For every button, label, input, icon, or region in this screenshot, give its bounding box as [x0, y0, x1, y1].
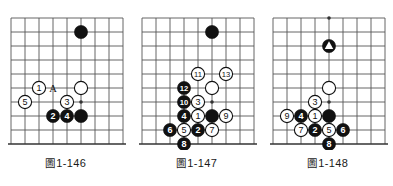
caption-mark-icon: 圖 [307, 157, 317, 169]
go-board-1-147: 12345678910111213 [131, 0, 262, 150]
svg-text:8: 8 [181, 139, 186, 149]
svg-text:9: 9 [223, 111, 228, 121]
svg-text:2: 2 [312, 125, 317, 135]
svg-text:5: 5 [181, 125, 186, 135]
svg-text:11: 11 [194, 70, 202, 79]
svg-text:10: 10 [180, 98, 188, 107]
svg-text:4: 4 [298, 111, 303, 121]
svg-text:4: 4 [181, 111, 186, 121]
figure-1-146: A12345 圖1-146 [0, 0, 131, 186]
svg-text:2: 2 [195, 125, 200, 135]
caption-number: 1-148 [318, 157, 348, 169]
svg-text:1: 1 [36, 83, 41, 93]
figure-1-148: 123456789 圖1-148 [262, 0, 393, 186]
caption-mark-icon: 圖 [45, 157, 55, 169]
svg-text:5: 5 [326, 125, 331, 135]
svg-text:5: 5 [22, 97, 27, 107]
svg-text:9: 9 [284, 111, 289, 121]
figure-caption-1-147: 圖1-147 [131, 155, 262, 170]
svg-text:A: A [49, 83, 57, 94]
svg-text:7: 7 [298, 125, 303, 135]
svg-text:12: 12 [180, 84, 188, 93]
go-board-1-148: 123456789 [262, 0, 393, 150]
go-diagram-sheet: A12345 圖1-146 12345678910111213 圖1-147 1… [0, 0, 393, 186]
svg-text:13: 13 [222, 70, 230, 79]
figure-caption-1-148: 圖1-148 [262, 155, 393, 170]
svg-text:1: 1 [312, 111, 317, 121]
go-board-1-146: A12345 [0, 0, 131, 150]
caption-number: 1-147 [187, 157, 217, 169]
svg-text:6: 6 [167, 125, 172, 135]
svg-text:1: 1 [195, 111, 200, 121]
svg-text:4: 4 [64, 111, 69, 121]
svg-text:7: 7 [209, 125, 214, 135]
figure-caption-1-146: 圖1-146 [0, 155, 131, 170]
svg-text:3: 3 [64, 97, 69, 107]
figure-1-147: 12345678910111213 圖1-147 [131, 0, 262, 186]
svg-text:3: 3 [195, 97, 200, 107]
svg-text:8: 8 [326, 139, 331, 149]
svg-text:3: 3 [312, 97, 317, 107]
svg-text:2: 2 [50, 111, 55, 121]
caption-number: 1-146 [56, 157, 86, 169]
svg-text:6: 6 [340, 125, 345, 135]
caption-mark-icon: 圖 [176, 157, 186, 169]
